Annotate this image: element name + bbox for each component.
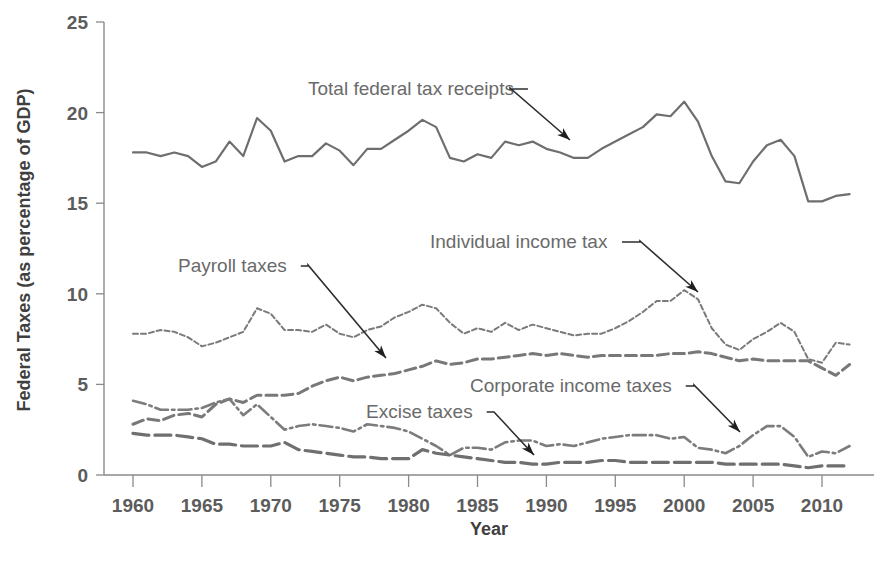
x-axis-title: Year <box>470 519 508 539</box>
tax-receipts-line-chart: 0510152025 19601965197019751980198519901… <box>0 0 881 562</box>
axis-titles-layer: Year Federal Taxes (as percentage of GDP… <box>0 0 881 562</box>
y-axis-title: Federal Taxes (as percentage of GDP) <box>14 89 34 412</box>
